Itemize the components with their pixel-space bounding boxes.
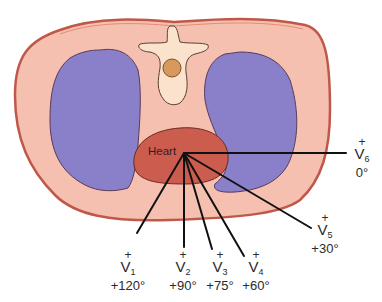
lead-label-v4: + V4 +60°	[231, 250, 281, 293]
lead-label-v5: + V5 +30°	[300, 213, 350, 256]
lead-label-v6: + V6 0°	[337, 137, 382, 180]
lead-label-v1: + V1 +120°	[103, 250, 153, 293]
heart-label: Heart	[148, 145, 176, 157]
spinal-cord	[163, 59, 181, 77]
